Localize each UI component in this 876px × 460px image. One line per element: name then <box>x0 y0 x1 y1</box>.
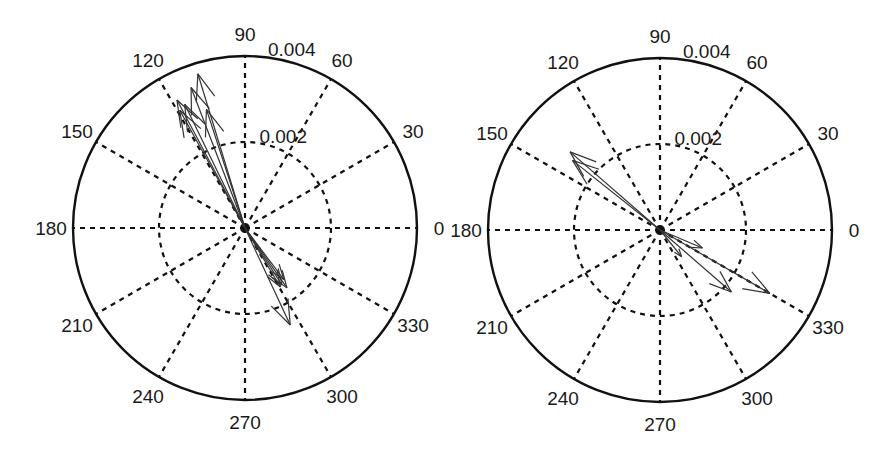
vector-arrow <box>185 104 245 228</box>
grid-spoke-240 <box>159 228 245 377</box>
theta-tick-label: 300 <box>741 388 773 409</box>
theta-tick-label: 180 <box>450 220 482 241</box>
theta-tick-label: 120 <box>132 50 164 71</box>
grid-spoke-300 <box>660 230 746 379</box>
theta-tick-label: 90 <box>234 24 255 45</box>
theta-tick-label: 210 <box>61 315 93 336</box>
theta-tick-label: 240 <box>547 388 579 409</box>
r-tick-label: 0.002 <box>674 128 722 149</box>
theta-tick-label: 150 <box>61 121 93 142</box>
vector-arrow <box>205 109 245 228</box>
theta-tick-label: 330 <box>812 317 844 338</box>
vector-arrow <box>660 230 770 293</box>
vector-arrow <box>245 228 284 280</box>
vector-arrow <box>573 160 660 230</box>
compass-plot-right: 03060901201501802102402703003300.0020.00… <box>450 26 859 435</box>
theta-tick-label: 300 <box>326 386 358 407</box>
theta-tick-label: 120 <box>547 52 579 73</box>
theta-tick-label: 60 <box>331 50 352 71</box>
theta-tick-label: 60 <box>746 52 767 73</box>
theta-tick-label: 30 <box>402 121 423 142</box>
grid-spoke-330 <box>245 228 394 314</box>
grid-spoke-240 <box>574 230 660 379</box>
figure: 03060901201501802102402703003300.0020.00… <box>0 0 876 460</box>
theta-tick-label: 270 <box>229 412 261 433</box>
theta-tick-label: 0 <box>434 218 445 239</box>
vector-arrow <box>660 230 731 292</box>
theta-tick-label: 270 <box>644 414 676 435</box>
theta-tick-label: 210 <box>476 317 508 338</box>
vector-arrow <box>191 87 245 228</box>
compass-plots: 03060901201501802102402703003300.0020.00… <box>0 0 876 460</box>
theta-tick-label: 0 <box>849 220 860 241</box>
r-tick-label: 0.004 <box>683 41 731 62</box>
grid-spoke-60 <box>245 79 331 228</box>
vector-arrow <box>245 228 280 287</box>
compass-plot-left: 03060901201501802102402703003300.0020.00… <box>35 24 444 433</box>
theta-tick-label: 330 <box>397 315 429 336</box>
theta-tick-label: 30 <box>817 123 838 144</box>
grid-spoke-120 <box>574 81 660 230</box>
theta-tick-label: 150 <box>476 123 508 144</box>
theta-tick-label: 90 <box>649 26 670 47</box>
r-tick-label: 0.002 <box>259 126 307 147</box>
theta-tick-label: 240 <box>132 386 164 407</box>
r-tick-label: 0.004 <box>268 39 316 60</box>
grid-spoke-60 <box>660 81 746 230</box>
theta-tick-label: 180 <box>35 218 67 239</box>
